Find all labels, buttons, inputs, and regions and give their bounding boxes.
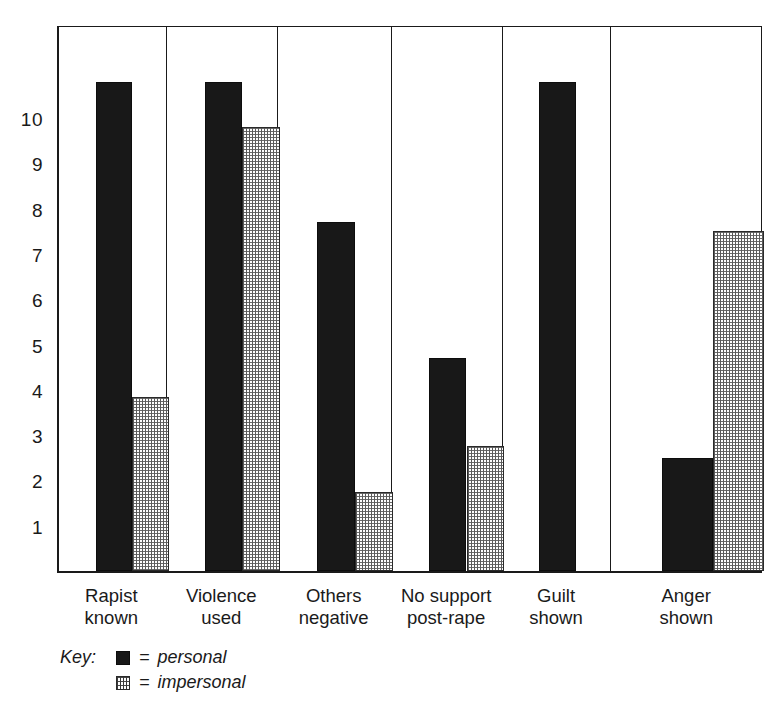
y-axis-tick-9: 9 [32,154,43,176]
bar-group [392,27,502,571]
legend-row-impersonal: = impersonal [60,670,246,695]
y-axis-tick-10: 10 [21,109,43,131]
chart-panel-2 [278,27,391,571]
bar-impersonal-1 [242,127,279,571]
chart-panel-1 [167,27,278,571]
y-axis-tick-6: 6 [32,290,43,312]
x-axis-label-3: No support post-rape [391,585,502,629]
x-axis-label-4: Guilt shown [502,585,611,629]
plot-area [57,26,762,573]
legend-equals-personal: = [139,647,150,668]
chart-panel-5 [611,27,761,571]
legend-key-label: Key: [60,647,116,668]
bar-impersonal-3 [467,446,504,571]
legend-equals-impersonal: = [139,672,150,693]
bar-personal-3 [429,358,466,571]
y-axis-tick-1: 1 [32,517,43,539]
y-axis-tick-8: 8 [32,200,43,222]
bar-impersonal-2 [355,492,393,571]
y-axis-tick-3: 3 [32,426,43,448]
bar-impersonal-0 [132,397,169,571]
x-axis-label-2: Others negative [277,585,391,629]
x-axis-label-0: Rapist known [57,585,166,629]
personal-swatch-icon [116,651,130,665]
bar-personal-1 [205,82,242,571]
bar-group [278,27,390,571]
bar-group [503,27,610,571]
legend-label-personal: personal [158,647,227,668]
y-axis-tick-4: 4 [32,381,43,403]
bar-group [167,27,277,571]
y-axis-tick-7: 7 [32,245,43,267]
chart-legend: Key: = personal = impersonal [60,645,246,695]
bar-personal-0 [96,82,133,571]
bar-group [59,27,166,571]
y-axis-tick-2: 2 [32,471,43,493]
bar-personal-5 [662,458,713,571]
bar-personal-2 [317,222,355,571]
chart-panel-4 [503,27,611,571]
bar-impersonal-5 [713,231,764,571]
y-axis: 10987654321 [0,0,55,701]
legend-label-impersonal: impersonal [158,672,246,693]
chart-panel-0 [59,27,167,571]
y-axis-tick-5: 5 [32,336,43,358]
bar-group [611,27,761,571]
x-axis-label-1: Violence used [166,585,277,629]
bar-personal-4 [539,82,576,571]
x-axis-label-5: Anger shown [610,585,762,629]
legend-row-personal: Key: = personal [60,645,246,670]
chart-panel-3 [392,27,503,571]
impersonal-swatch-icon [116,676,130,690]
bar-chart-figure: 10987654321 Rapist knownViolence usedOth… [0,0,776,701]
x-axis-labels: Rapist knownViolence usedOthers negative… [57,585,762,637]
